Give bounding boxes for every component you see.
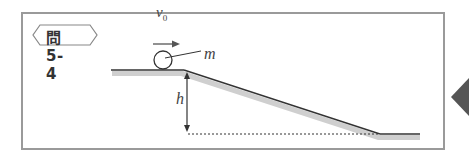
side-tab-arrow-icon[interactable] bbox=[451, 78, 469, 116]
height-label: h bbox=[176, 90, 184, 108]
mass-label: m bbox=[204, 45, 216, 63]
slope-diagram bbox=[0, 0, 469, 162]
ground-shadow bbox=[112, 71, 420, 140]
height-arrow-down-icon bbox=[184, 125, 190, 132]
velocity-arrow-head-icon bbox=[172, 41, 180, 48]
velocity-label: v0 bbox=[156, 4, 167, 23]
slope-line bbox=[184, 70, 380, 134]
ball bbox=[154, 51, 172, 69]
